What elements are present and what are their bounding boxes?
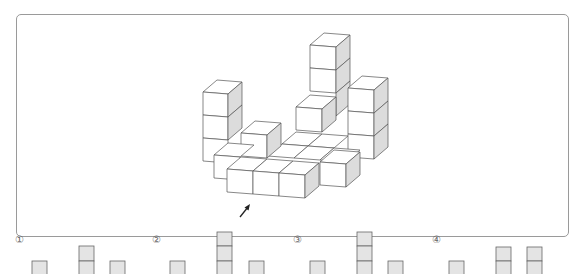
option-2-view[interactable] — [170, 232, 264, 274]
cube-figure — [0, 0, 579, 274]
view-direction-arrow-icon — [240, 204, 250, 217]
option-1-view[interactable] — [32, 246, 125, 274]
option-4-view[interactable] — [449, 247, 542, 274]
cube — [296, 95, 336, 132]
option-3-label[interactable]: ③ — [293, 234, 302, 245]
option-1-label[interactable]: ① — [15, 234, 24, 245]
cube-stack — [203, 33, 388, 198]
option-4-label[interactable]: ④ — [432, 234, 441, 245]
option-2-label[interactable]: ② — [152, 234, 161, 245]
option-3-view[interactable] — [310, 232, 403, 274]
